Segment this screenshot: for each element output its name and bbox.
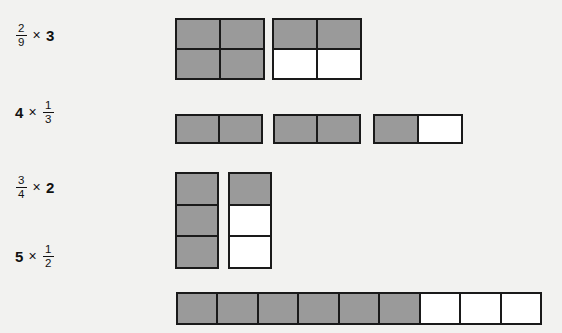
cell-shaded bbox=[297, 294, 337, 323]
cell-shaded bbox=[177, 174, 217, 204]
cell-shaded bbox=[274, 20, 316, 48]
cell-shaded bbox=[378, 294, 418, 323]
cell-shaded bbox=[178, 294, 216, 323]
multiplication-sign: × bbox=[29, 249, 37, 263]
cell-unshaded bbox=[500, 294, 540, 323]
model-row-2-block-2 bbox=[273, 114, 361, 144]
cell-shaded bbox=[338, 294, 378, 323]
cell-shaded bbox=[275, 116, 316, 142]
cell-shaded bbox=[230, 174, 270, 204]
multiplication-sign: × bbox=[33, 180, 41, 194]
whole-number: 2 bbox=[46, 180, 55, 195]
model-row bbox=[274, 20, 360, 48]
whole-number: 4 bbox=[15, 105, 24, 120]
expression-row-4: 5 × 1 2 bbox=[15, 243, 55, 270]
cell-unshaded bbox=[230, 204, 270, 236]
model-row-1-block-1 bbox=[175, 18, 265, 80]
fraction-2-9: 2 9 bbox=[16, 22, 27, 49]
cell-shaded bbox=[177, 20, 219, 48]
model-row-3-block-2 bbox=[228, 172, 272, 269]
multiplication-sign: × bbox=[29, 105, 37, 119]
fraction-1-2: 1 2 bbox=[43, 243, 54, 270]
cell-shaded bbox=[316, 20, 360, 48]
expression-row-2: 4 × 1 3 bbox=[15, 99, 55, 126]
whole-number: 5 bbox=[15, 249, 24, 264]
worksheet-page: 2 9 × 3 4 × 1 3 bbox=[0, 0, 562, 333]
fraction-3-4: 3 4 bbox=[16, 174, 27, 201]
cell-unshaded bbox=[274, 50, 316, 78]
cell-shaded bbox=[177, 50, 219, 78]
model-row bbox=[274, 48, 360, 78]
cell-shaded bbox=[216, 294, 256, 323]
expression-row-1: 2 9 × 3 bbox=[15, 22, 55, 49]
cell-shaded bbox=[218, 116, 261, 142]
cell-unshaded bbox=[316, 50, 360, 78]
cell-unshaded bbox=[459, 294, 499, 323]
model-row-2-block-1 bbox=[175, 114, 263, 144]
model-row bbox=[177, 20, 263, 48]
multiplication-sign: × bbox=[33, 28, 41, 42]
cell-shaded bbox=[257, 294, 297, 323]
cell-shaded bbox=[177, 204, 217, 236]
cell-shaded bbox=[177, 116, 218, 142]
model-row-2-block-3 bbox=[373, 114, 463, 144]
model-row-3-block-1 bbox=[175, 172, 219, 269]
cell-shaded bbox=[219, 20, 263, 48]
model-row-1-block-2 bbox=[272, 18, 362, 80]
cell-shaded bbox=[177, 235, 217, 267]
model-row-4-block-1 bbox=[176, 292, 542, 325]
fraction-1-3: 1 3 bbox=[43, 99, 54, 126]
cell-unshaded bbox=[230, 235, 270, 267]
cell-unshaded bbox=[417, 116, 461, 142]
expression-row-3: 3 4 × 2 bbox=[15, 174, 55, 201]
cell-unshaded bbox=[419, 294, 459, 323]
cell-shaded bbox=[316, 116, 359, 142]
cell-shaded bbox=[219, 50, 263, 78]
model-row bbox=[177, 48, 263, 78]
whole-number: 3 bbox=[46, 28, 55, 43]
cell-shaded bbox=[375, 116, 417, 142]
